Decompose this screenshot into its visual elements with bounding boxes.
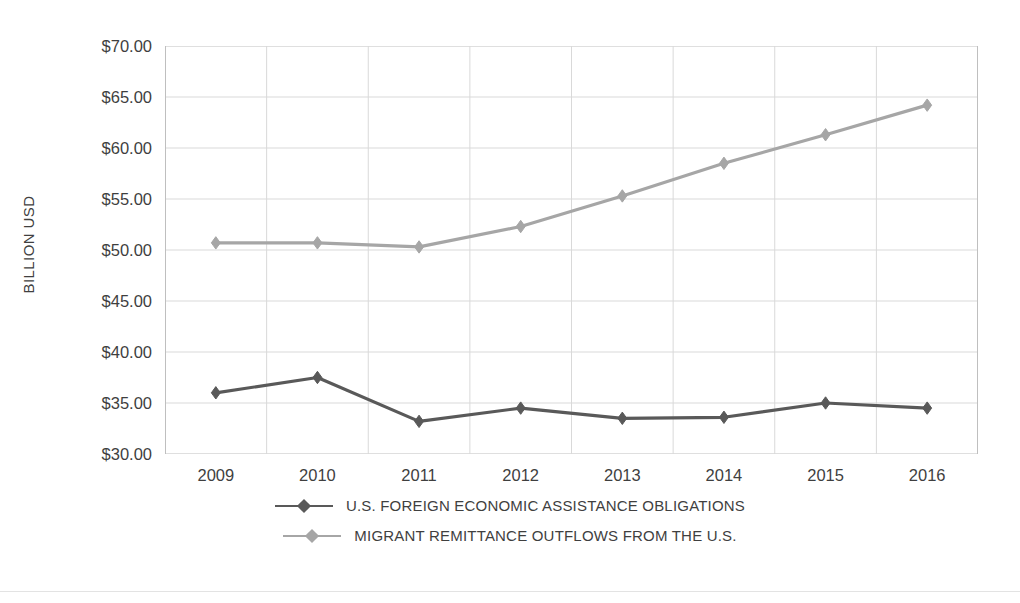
y-axis-tick-labels: $70.00$65.00$60.00$55.00$50.00$45.00$40.… (165, 46, 978, 454)
x-axis-tick-label: 2009 (171, 466, 261, 485)
chart-legend: U.S. FOREIGN ECONOMIC ASSISTANCE OBLIGAT… (0, 497, 1020, 544)
x-axis-tick-label: 2016 (882, 466, 972, 485)
x-axis-tick-label: 2013 (577, 466, 667, 485)
plot-area: $70.00$65.00$60.00$55.00$50.00$45.00$40.… (165, 46, 978, 454)
y-axis-tick-label: $65.00 (60, 89, 152, 106)
legend-diamond-marker-icon (305, 528, 319, 542)
y-axis-tick-label: $55.00 (60, 191, 152, 208)
y-axis-tick-label: $35.00 (60, 395, 152, 412)
legend-label: U.S. FOREIGN ECONOMIC ASSISTANCE OBLIGAT… (346, 497, 745, 514)
x-axis-tick-label: 2014 (679, 466, 769, 485)
x-axis-tick-label: 2012 (476, 466, 566, 485)
y-axis-tick-label: $45.00 (60, 293, 152, 310)
legend-diamond-marker-icon (297, 498, 311, 512)
footer-divider (0, 591, 1020, 592)
y-axis-tick-label: $40.00 (60, 344, 152, 361)
y-axis-tick-label: $70.00 (60, 38, 152, 55)
y-axis-tick-label: $30.00 (60, 446, 152, 463)
line-chart: BILLION USD $70.00$65.00$60.00$55.00$50.… (0, 0, 1020, 603)
x-axis-tick-label: 2011 (374, 466, 464, 485)
y-axis-tick-label: $60.00 (60, 140, 152, 157)
y-axis-tick-label: $50.00 (60, 242, 152, 259)
legend-item-1[interactable]: MIGRANT REMITTANCE OUTFLOWS FROM THE U.S… (283, 527, 736, 544)
legend-key-swatch (275, 499, 333, 513)
y-axis-title: BILLION USD (20, 155, 37, 335)
x-axis-tick-label: 2015 (781, 466, 871, 485)
legend-label: MIGRANT REMITTANCE OUTFLOWS FROM THE U.S… (354, 527, 736, 544)
legend-item-0[interactable]: U.S. FOREIGN ECONOMIC ASSISTANCE OBLIGAT… (275, 497, 745, 514)
x-axis-tick-label: 2010 (272, 466, 362, 485)
legend-key-swatch (283, 529, 341, 543)
